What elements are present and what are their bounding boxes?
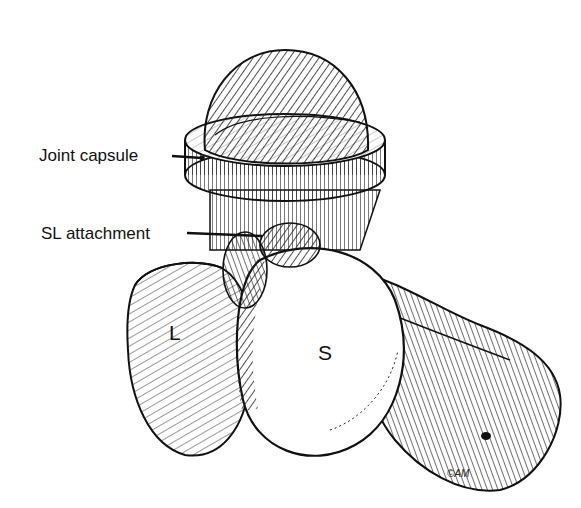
label-L: L xyxy=(169,322,181,343)
artist-signature: ©AM xyxy=(447,468,469,479)
anatomical-illustration: Joint capsule SL attachment L S ©AM xyxy=(0,0,581,508)
label-joint-capsule: Joint capsule xyxy=(39,147,138,164)
label-S: S xyxy=(318,342,332,363)
label-sl-attachment: SL attachment xyxy=(41,225,150,242)
bone-drawing xyxy=(0,0,581,508)
dome xyxy=(205,50,369,164)
